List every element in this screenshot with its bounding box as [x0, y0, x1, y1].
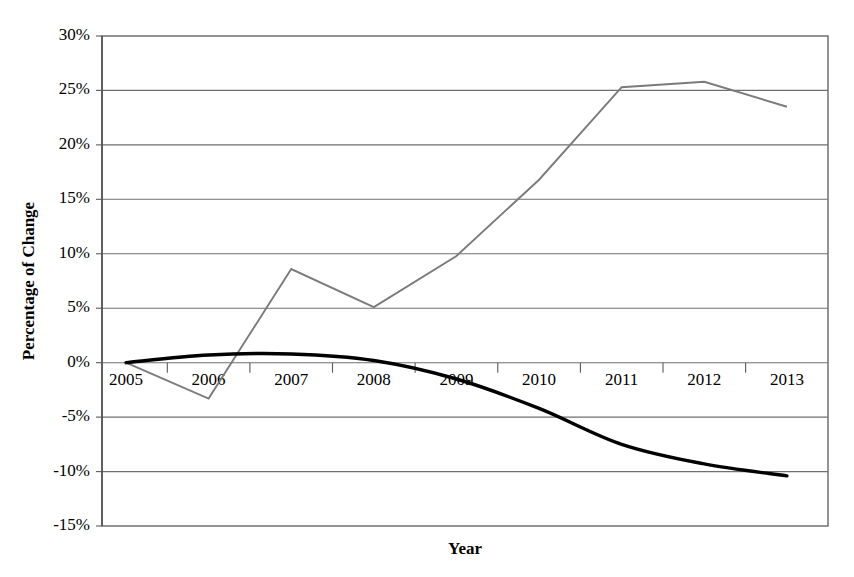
- xtick-label-2011: 2011: [605, 370, 638, 389]
- ytick-label-0: 0%: [67, 352, 90, 371]
- ytick-label-30: 30%: [59, 25, 90, 44]
- ytick-label-25: 25%: [59, 79, 90, 98]
- ytick-label-15: 15%: [59, 188, 90, 207]
- ytick-label-20: 20%: [59, 134, 90, 153]
- line-chart: 30% 25% 20% 15% 10% 5% 0% -5% -10% -15% …: [0, 0, 854, 577]
- xtick-label-2012: 2012: [687, 370, 721, 389]
- xtick-label-2005: 2005: [109, 370, 143, 389]
- chart-background: [0, 0, 854, 577]
- xtick-label-2008: 2008: [357, 370, 391, 389]
- x-axis-title: Year: [448, 539, 482, 558]
- y-axis-title: Percentage of Change: [19, 201, 38, 360]
- ytick-label-5: 5%: [67, 297, 90, 316]
- ytick-label-neg5: -5%: [62, 406, 90, 425]
- xtick-label-2010: 2010: [522, 370, 556, 389]
- ytick-label-10: 10%: [59, 243, 90, 262]
- xtick-label-2007: 2007: [274, 370, 309, 389]
- xtick-label-2013: 2013: [770, 370, 804, 389]
- ytick-label-neg15: -15%: [53, 515, 90, 534]
- chart-canvas: 30% 25% 20% 15% 10% 5% 0% -5% -10% -15% …: [0, 0, 854, 577]
- ytick-label-neg10: -10%: [53, 461, 90, 480]
